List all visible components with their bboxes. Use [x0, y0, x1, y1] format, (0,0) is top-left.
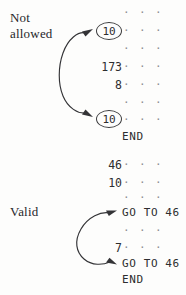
code-dots: · · ·	[123, 175, 163, 191]
code-dots: · · ·	[123, 59, 163, 75]
code-dots: · · ·	[123, 157, 163, 173]
valid-label: Valid	[10, 204, 38, 219]
code-dots: · · ·	[123, 41, 163, 57]
goto-statement-first: GO TO 46	[122, 205, 180, 221]
code-dots: · · ·	[123, 112, 163, 128]
code-dots: · · ·	[123, 95, 163, 111]
end-statement-top: END	[122, 129, 144, 145]
code-dots: · · ·	[123, 77, 163, 93]
not-allowed-label-line2: allowed	[10, 26, 53, 41]
arrow-bottom-goto-target	[77, 211, 117, 265]
line-number-10-valid: 10	[76, 175, 122, 191]
code-dots: · · ·	[123, 240, 163, 256]
code-dots: · · ·	[123, 23, 163, 39]
code-dots: · · ·	[123, 5, 163, 21]
not-allowed-label-line1: Not	[10, 10, 30, 25]
line-number-7: 7	[76, 240, 122, 256]
code-dots: · · ·	[123, 190, 163, 206]
circled-line-number-10-top: 10	[96, 22, 122, 40]
goto-statement-second: GO TO 46	[122, 256, 180, 272]
line-number-8: 8	[76, 77, 122, 93]
line-number-173: 173	[76, 59, 122, 75]
circled-line-number-10-bottom: 10	[96, 110, 122, 128]
line-number-46: 46	[76, 157, 122, 173]
figure-goto-examples: Not allowed · · · 10 · · · · · · 173 · ·…	[0, 0, 186, 295]
code-dots: · · ·	[123, 223, 163, 239]
end-statement-bottom: END	[122, 272, 144, 288]
